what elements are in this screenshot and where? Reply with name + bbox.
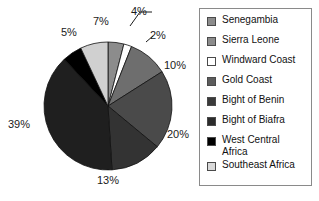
- legend-item-label: Windward Coast: [222, 53, 295, 66]
- legend-color-swatch: [207, 17, 216, 26]
- pie-percent-label: 39%: [8, 118, 30, 130]
- legend-color-swatch: [207, 117, 216, 126]
- legend-item-label: Bight of Biafra: [222, 113, 285, 126]
- legend-color-swatch: [207, 97, 216, 106]
- legend-color-swatch: [207, 77, 216, 86]
- legend-item-label: Bight of Benin: [222, 93, 284, 106]
- pie-svg: [0, 0, 196, 201]
- pie-slice-group: [44, 42, 172, 170]
- pie-percent-label: 5%: [61, 26, 77, 38]
- pie-percent-label: 13%: [97, 174, 119, 186]
- legend-item[interactable]: Sierra Leone: [200, 33, 311, 52]
- pie-plot-area: 4%2%10%20%13%39%5%7%: [0, 0, 196, 201]
- legend-item[interactable]: Bight of Biafra: [200, 113, 311, 132]
- legend-color-swatch: [207, 137, 216, 146]
- pie-percent-label: 4%: [131, 5, 147, 17]
- legend-item[interactable]: Southeast Africa: [200, 158, 311, 177]
- legend-item[interactable]: Windward Coast: [200, 53, 311, 72]
- legend-item-label: Gold Coast: [222, 73, 272, 86]
- legend-item[interactable]: Gold Coast: [200, 73, 311, 92]
- legend-color-swatch: [207, 37, 216, 46]
- pie-chart-figure: 4%2%10%20%13%39%5%7% SenegambiaSierra Le…: [0, 0, 319, 201]
- legend-color-swatch: [207, 57, 216, 66]
- legend-item-label: West Central Africa: [222, 133, 307, 157]
- pie-percent-label: 10%: [164, 59, 186, 71]
- legend-item[interactable]: West Central Africa: [200, 133, 311, 157]
- legend-item-label: Sierra Leone: [222, 33, 279, 46]
- legend-color-swatch: [207, 162, 216, 171]
- pie-percent-label: 2%: [150, 29, 166, 41]
- legend-item-label: Senegambia: [222, 13, 278, 26]
- pie-percent-label: 20%: [167, 128, 189, 140]
- legend-item[interactable]: Bight of Benin: [200, 93, 311, 112]
- legend-item-label: Southeast Africa: [222, 158, 295, 171]
- pie-percent-label: 7%: [93, 15, 109, 27]
- legend-item[interactable]: Senegambia: [200, 13, 311, 32]
- legend: SenegambiaSierra LeoneWindward CoastGold…: [199, 8, 312, 186]
